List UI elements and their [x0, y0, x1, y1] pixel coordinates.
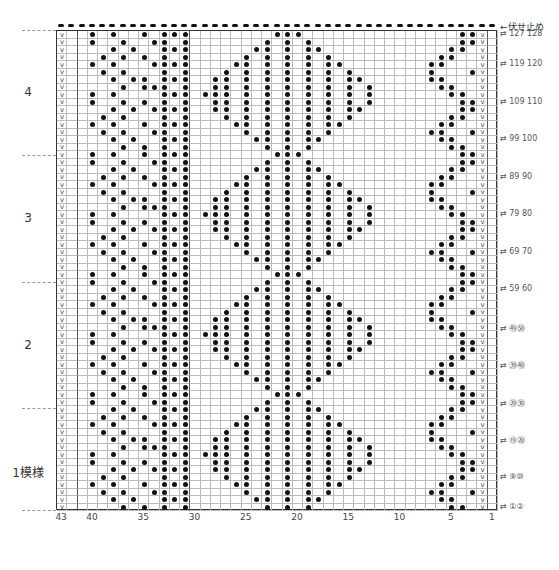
grid-cell — [406, 69, 416, 77]
grid-cell — [78, 84, 88, 92]
grid-cell — [457, 489, 467, 497]
grid-cell — [395, 151, 405, 159]
grid-cell — [231, 174, 241, 182]
grid-cell — [457, 54, 467, 62]
grid-cell — [365, 264, 375, 272]
grid-cell — [395, 421, 405, 429]
grid-cell — [426, 324, 436, 332]
grid-cell — [78, 421, 88, 429]
grid-cell — [324, 504, 334, 512]
grid-cell — [272, 54, 282, 62]
grid-cell — [457, 369, 467, 377]
grid-cell — [272, 204, 282, 212]
grid-cell — [231, 399, 241, 407]
grid-cell — [457, 481, 467, 489]
grid-cell — [149, 271, 159, 279]
grid-cell — [98, 271, 108, 279]
grid-cell — [108, 114, 118, 122]
grid-cell — [385, 39, 395, 47]
grid-cell — [488, 166, 498, 174]
grid-cell — [139, 421, 149, 429]
grid-cell — [78, 69, 88, 77]
grid-cell — [67, 91, 77, 99]
grid-cell — [119, 301, 129, 309]
grid-cell — [211, 421, 221, 429]
purl-stitch-dot — [224, 197, 229, 202]
grid-cell — [385, 376, 395, 384]
grid-cell — [344, 264, 354, 272]
purl-stitch-dot — [265, 482, 270, 487]
grid-cell — [78, 331, 88, 339]
grid-cell — [252, 436, 262, 444]
grid-cell — [395, 129, 405, 137]
grid-cell — [149, 376, 159, 384]
grid-cell — [190, 309, 200, 317]
grid-cell — [416, 406, 426, 414]
purl-stitch-dot — [265, 437, 270, 442]
purl-stitch-dot — [244, 175, 249, 180]
slip-stitch-icon: v — [57, 54, 67, 61]
grid-cell — [313, 249, 323, 257]
purl-stitch-dot — [460, 505, 465, 510]
grid-cell — [190, 496, 200, 504]
grid-cell — [334, 234, 344, 242]
grid-cell — [67, 84, 77, 92]
purl-stitch-dot — [183, 137, 188, 142]
purl-stitch-dot — [306, 445, 311, 450]
grid-cell — [416, 324, 426, 332]
grid-cell — [129, 331, 139, 339]
grid-cell — [67, 466, 77, 474]
grid-cell — [406, 339, 416, 347]
grid-cell — [139, 496, 149, 504]
grid-cell — [190, 286, 200, 294]
grid-cell — [108, 249, 118, 257]
grid-cell — [88, 144, 98, 152]
purl-stitch-dot — [121, 370, 126, 375]
purl-stitch-dot — [265, 55, 270, 60]
grid-cell — [201, 204, 211, 212]
purl-stitch-dot — [121, 40, 126, 45]
grid-cell — [272, 114, 282, 122]
purl-stitch-dot — [470, 250, 475, 255]
grid-cell — [436, 69, 446, 77]
grid-cell — [190, 444, 200, 452]
grid-cell — [149, 474, 159, 482]
purl-stitch-dot — [162, 280, 167, 285]
purl-stitch-dot — [183, 272, 188, 277]
grid-cell — [354, 481, 364, 489]
grid-cell — [313, 181, 323, 189]
grid-cell — [406, 414, 416, 422]
grid-cell — [416, 466, 426, 474]
grid-cell — [221, 406, 231, 414]
grid-cell — [78, 354, 88, 362]
grid-cell — [272, 451, 282, 459]
grid-cell — [88, 189, 98, 197]
purl-stitch-dot — [162, 400, 167, 405]
purl-stitch-dot — [183, 415, 188, 420]
grid-cell — [395, 399, 405, 407]
grid-cell — [67, 61, 77, 69]
grid-cell — [436, 219, 446, 227]
purl-stitch-dot — [183, 32, 188, 37]
row-number-label: ⇄ ①② — [500, 502, 524, 511]
grid-cell — [365, 114, 375, 122]
purl-stitch-dot — [265, 287, 270, 292]
grid-cell — [324, 496, 334, 504]
grid-cell — [67, 129, 77, 137]
purl-stitch-dot — [439, 205, 444, 210]
grid-cell — [170, 114, 180, 122]
purl-stitch-dot — [265, 182, 270, 187]
grid-cell — [149, 31, 159, 39]
grid-cell — [129, 399, 139, 407]
purl-stitch-dot — [121, 220, 126, 225]
grid-cell — [78, 129, 88, 137]
grid-cell — [344, 406, 354, 414]
grid-cell — [67, 384, 77, 392]
grid-cell — [416, 444, 426, 452]
grid-cell — [201, 324, 211, 332]
grid-cell — [334, 354, 344, 362]
grid-cell — [365, 256, 375, 264]
purl-stitch-dot — [429, 250, 434, 255]
grid-cell — [231, 324, 241, 332]
grid-cell — [221, 174, 231, 182]
